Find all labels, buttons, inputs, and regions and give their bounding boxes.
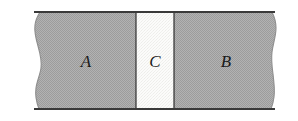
region-c-label: C: [149, 53, 160, 70]
figure-container: A C B: [0, 0, 298, 121]
region-a-label: A: [81, 53, 91, 70]
region-b-label: B: [221, 53, 231, 70]
